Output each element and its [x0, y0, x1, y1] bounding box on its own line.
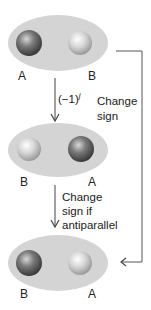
spin-label-3: antiparallel [62, 219, 118, 231]
sphere-light [68, 251, 92, 275]
sphere-dark [16, 30, 42, 56]
state-1: A B [8, 15, 108, 83]
state-3: B A [8, 235, 108, 301]
label-right: B [88, 69, 96, 83]
label-right: A [88, 287, 96, 301]
arrow-exchange: (−1)j [51, 78, 81, 121]
exchange-symmetry-diagram: A B (−1)j Change sign B A Change sign if… [0, 0, 151, 310]
exchange-factor: (−1)j [58, 91, 81, 105]
sphere-light [17, 137, 41, 161]
sphere-light [68, 31, 92, 55]
bracket-label-1: Change [97, 95, 137, 107]
label-left: B [20, 175, 28, 189]
arrow-spin: Change sign if antiparallel [51, 185, 118, 231]
label-left: B [20, 287, 28, 301]
sphere-dark [68, 136, 94, 162]
spin-label-1: Change [62, 191, 102, 203]
sphere-dark [16, 250, 42, 276]
spin-label-2: sign if [62, 205, 93, 217]
bracket-line [116, 51, 142, 262]
state-2: B A [8, 123, 108, 189]
label-right: A [88, 175, 96, 189]
label-left: A [18, 69, 26, 83]
bracket-label-2: sign [97, 110, 118, 122]
